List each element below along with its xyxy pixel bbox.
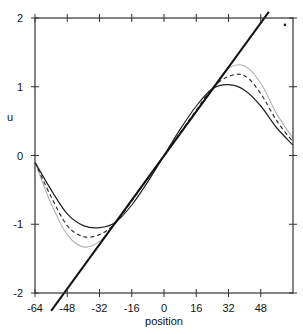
- x-tick-label: -32: [92, 302, 108, 314]
- straight-line-series: [51, 12, 269, 311]
- x-axis-ticks: -64-48-32-160163248: [27, 14, 267, 314]
- y-axis-label: u: [7, 111, 13, 123]
- y-tick-label: 0: [17, 150, 23, 162]
- x-tick-label: -16: [124, 302, 140, 314]
- x-axis-label: position: [145, 315, 183, 327]
- annotations: [284, 24, 287, 27]
- x-tick-label: -48: [59, 302, 75, 314]
- plot-series: [35, 12, 293, 311]
- y-tick-label: -1: [13, 218, 23, 230]
- y-tick-label: -2: [13, 287, 23, 299]
- x-tick-label: 0: [161, 302, 167, 314]
- y-tick-label: 2: [17, 12, 23, 24]
- x-tick-label: 48: [255, 302, 267, 314]
- x-tick-label: -64: [27, 302, 43, 314]
- marker-dot: [284, 24, 287, 27]
- y-axis-ticks: -2-1012: [13, 12, 297, 299]
- x-tick-label: 32: [222, 302, 234, 314]
- x-tick-label: 16: [190, 302, 202, 314]
- y-tick-label: 1: [17, 81, 23, 93]
- line-chart: -64-48-32-160163248 -2-1012 position u: [0, 0, 303, 334]
